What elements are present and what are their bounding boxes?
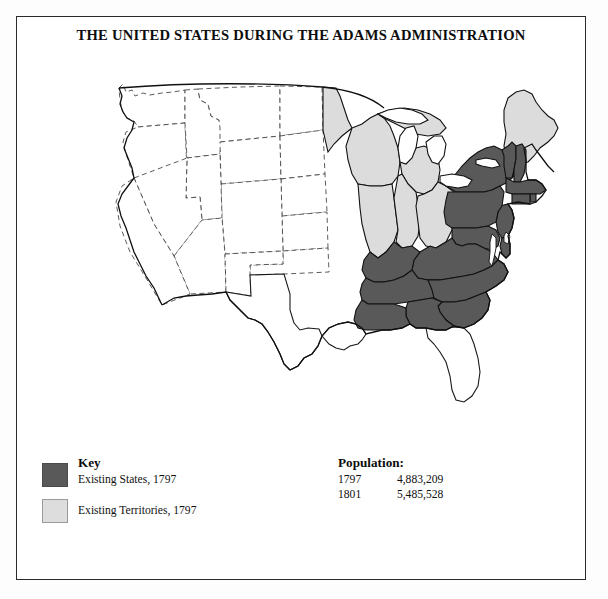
region-colorado — [221, 179, 283, 254]
western-future-states-group — [116, 84, 329, 305]
light-gray-swatch-icon — [42, 499, 68, 523]
map-figure: THE UNITED STATES DURING THE ADAMS ADMIN… — [0, 0, 608, 599]
population-heading: Population: — [338, 455, 538, 470]
map-canvas: .st { fill:#595959; stroke:#111111; stro… — [22, 66, 580, 436]
legend-item-label: Existing States, 1797 — [78, 473, 176, 486]
region-washington — [119, 84, 185, 127]
population-row: 1797 4,883,209 — [338, 472, 538, 487]
page-title: THE UNITED STATES DURING THE ADAMS ADMIN… — [16, 27, 586, 44]
legend: Existing States, 1797 Existing Territori… — [41, 455, 291, 525]
legend-item-label: Existing Territories, 1797 — [78, 504, 196, 517]
region-florida — [426, 327, 480, 402]
state-pennsylvania — [444, 186, 504, 228]
mississippi-territory-group — [354, 300, 410, 330]
united-states-map-1797: .st { fill:#595959; stroke:#111111; stro… — [22, 66, 580, 436]
region-kansas — [282, 212, 328, 251]
dark-gray-swatch-icon — [42, 463, 68, 487]
state-rhode-island — [530, 194, 536, 202]
population-year: 1801 — [338, 487, 394, 502]
territory-wisconsin — [346, 114, 400, 186]
population-row: 1801 5,485,528 — [338, 487, 538, 502]
region-wyoming — [220, 136, 281, 184]
population-value: 4,883,209 — [397, 472, 443, 487]
region-south-dakota — [280, 130, 325, 179]
population-block: Population: 1797 4,883,209 1801 5,485,52… — [338, 455, 538, 502]
territory-mississippi-shaded — [354, 300, 410, 330]
region-north-dakota — [280, 86, 323, 136]
state-massachusetts — [506, 178, 546, 194]
population-value: 5,485,528 — [397, 487, 443, 502]
region-nebraska — [281, 174, 327, 216]
population-year: 1797 — [338, 472, 394, 487]
